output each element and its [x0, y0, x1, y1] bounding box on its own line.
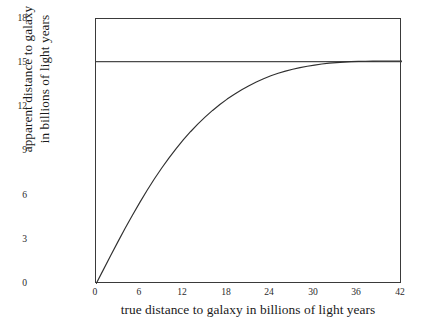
x-tick-label-12: 12	[167, 287, 197, 297]
y-tick-label-3: 3	[3, 234, 27, 244]
x-tick-label-18: 18	[211, 287, 241, 297]
x-tick-label-36: 36	[341, 287, 371, 297]
y-tick-label-0: 0	[3, 278, 27, 288]
y-tick-label-6: 6	[3, 190, 27, 200]
y-tick-label-9: 9	[3, 145, 27, 155]
x-tick-label-6: 6	[124, 287, 154, 297]
x-tick-label-30: 30	[298, 287, 328, 297]
x-tick-label-42: 42	[385, 287, 415, 297]
data-series-line	[96, 61, 402, 284]
x-axis-label: true distance to galaxy in billions of l…	[95, 302, 401, 318]
plot-canvas	[96, 19, 402, 284]
y-tick-label-12: 12	[3, 101, 27, 111]
plot-area	[95, 18, 401, 283]
chart-figure: apparent distance to galaxy in billions …	[0, 0, 428, 335]
x-tick-label-24: 24	[254, 287, 284, 297]
y-axis-label-line-1: apparent distance to galaxy	[20, 6, 36, 153]
y-axis-label-line-2: in billions of light years	[37, 15, 53, 144]
y-tick-label-18: 18	[3, 13, 27, 23]
y-tick-label-15: 15	[3, 57, 27, 67]
x-tick-label-0: 0	[80, 287, 110, 297]
